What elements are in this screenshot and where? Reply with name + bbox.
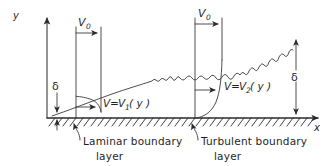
turbulent-v0-subscript: 0: [206, 13, 211, 22]
turbulent-freestream-group: [195, 18, 222, 118]
turbulent-profile-curve: [195, 60, 222, 118]
laminar-callout-line1: Laminar boundary: [83, 135, 182, 147]
laminar-callout-text: Laminar boundary layer: [83, 135, 182, 162]
laminar-callout-line2: layer: [96, 150, 124, 162]
turbulent-callout-text: Turbulent boundary layer: [200, 135, 307, 162]
laminar-profile-curve: [76, 96, 101, 112]
turbulent-callout-leader: [192, 124, 198, 140]
turbulent-profile-group: [195, 60, 222, 118]
turbulent-eq-arg: ( y ): [250, 80, 271, 92]
boundary-layer-figure: y x V 0 V 0 δ δ V = V 1 ( y ) V = V: [0, 0, 333, 166]
laminar-v0-subscript: 0: [86, 22, 91, 31]
turbulent-callout-line1: Turbulent boundary: [200, 135, 307, 147]
turbulent-v0-label: V 0: [198, 7, 211, 22]
left-delta-label: δ: [52, 80, 59, 93]
x-axis-label: x: [313, 122, 320, 133]
laminar-freestream-group: [76, 27, 101, 118]
y-axis-label: y: [12, 10, 20, 21]
laminar-v0-label: V 0: [78, 16, 91, 31]
laminar-eq-arg: ( y ): [129, 97, 150, 109]
wall-hatching: [49, 118, 314, 126]
laminar-profile-group: [76, 96, 101, 112]
figure-canvas: y x V 0 V 0 δ δ V = V 1 ( y ) V = V: [0, 0, 333, 166]
turbulent-callout-line2: layer: [214, 150, 242, 162]
laminar-profile-equation: V = V 1 ( y ): [103, 97, 150, 112]
right-delta-label: δ: [291, 71, 298, 84]
turbulent-profile-equation: V = V 2 ( y ): [224, 80, 271, 95]
wall-surface: [47, 118, 318, 126]
